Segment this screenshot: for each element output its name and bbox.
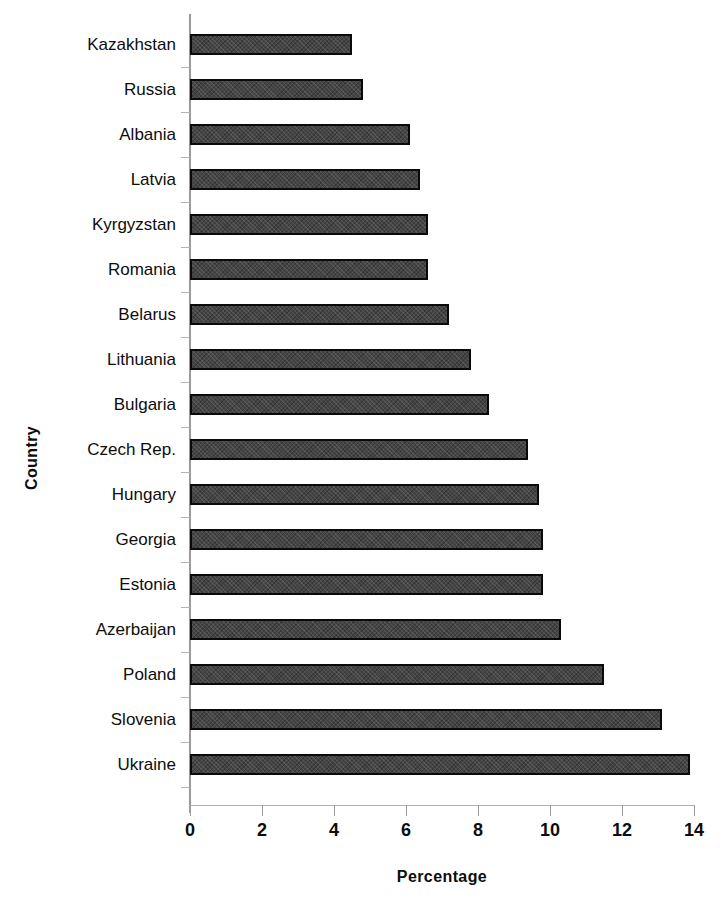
category-label: Poland: [0, 652, 176, 697]
x-axis-tick-label: 10: [540, 820, 560, 841]
category-label: Czech Rep.: [0, 427, 176, 472]
bar[interactable]: [190, 304, 449, 325]
category-axis-tick: [181, 202, 190, 203]
category-axis-tick: [181, 157, 190, 158]
x-axis-tick: [550, 805, 551, 816]
category-label-text: Georgia: [116, 530, 176, 550]
bar[interactable]: [190, 214, 428, 235]
category-label: Kyrgyzstan: [0, 202, 176, 247]
bar[interactable]: [190, 709, 662, 730]
category-label: Latvia: [0, 157, 176, 202]
bar[interactable]: [190, 259, 428, 280]
x-axis-tick-label: 14: [684, 820, 704, 841]
category-label-text: Azerbaijan: [96, 620, 176, 640]
category-label: Estonia: [0, 562, 176, 607]
category-axis-tick: [181, 67, 190, 68]
category-axis-tick: [181, 607, 190, 608]
category-label-text: Belarus: [118, 305, 176, 325]
category-axis-tick: [181, 247, 190, 248]
x-axis-tick-label: 8: [473, 820, 483, 841]
x-axis-tick: [406, 805, 407, 816]
x-axis-tick-label: 6: [401, 820, 411, 841]
plot-area: 02468101214: [190, 22, 694, 805]
category-label: Russia: [0, 67, 176, 112]
bar[interactable]: [190, 349, 471, 370]
category-axis-tick: [181, 112, 190, 113]
bar[interactable]: [190, 529, 543, 550]
x-axis-tick-label: 4: [329, 820, 339, 841]
x-axis-tick-label: 12: [612, 820, 632, 841]
category-label: Albania: [0, 112, 176, 157]
category-axis-tick: [181, 652, 190, 653]
category-label-text: Kazakhstan: [87, 35, 176, 55]
category-label-text: Latvia: [131, 170, 176, 190]
category-label: Lithuania: [0, 337, 176, 382]
category-label-text: Poland: [123, 665, 176, 685]
category-label: Belarus: [0, 292, 176, 337]
category-label-text: Slovenia: [111, 710, 176, 730]
category-axis-tick: [181, 472, 190, 473]
category-axis-tick: [181, 787, 190, 788]
category-axis-tick: [181, 337, 190, 338]
x-axis-title: Percentage: [190, 868, 694, 886]
x-axis-tick-label: 2: [257, 820, 267, 841]
category-axis-tick: [181, 697, 190, 698]
x-axis-tick: [262, 805, 263, 816]
bar[interactable]: [190, 439, 528, 460]
category-label: Kazakhstan: [0, 22, 176, 67]
x-axis-tick-label: 0: [185, 820, 195, 841]
category-label-text: Russia: [124, 80, 176, 100]
category-label: Georgia: [0, 517, 176, 562]
category-label-text: Bulgaria: [114, 395, 176, 415]
bar[interactable]: [190, 754, 690, 775]
category-axis-tick: [181, 517, 190, 518]
category-label: Ukraine: [0, 742, 176, 787]
category-axis-tick: [181, 382, 190, 383]
category-label-text: Estonia: [119, 575, 176, 595]
x-axis-line: [189, 805, 695, 806]
bar[interactable]: [190, 484, 539, 505]
bar[interactable]: [190, 34, 352, 55]
category-axis-tick: [181, 742, 190, 743]
category-label: Romania: [0, 247, 176, 292]
category-label: Bulgaria: [0, 382, 176, 427]
x-axis-tick: [334, 805, 335, 816]
category-label-text: Kyrgyzstan: [92, 215, 176, 235]
category-label-text: Hungary: [112, 485, 176, 505]
bar[interactable]: [190, 79, 363, 100]
category-label-text: Czech Rep.: [87, 440, 176, 460]
x-axis-tick: [622, 805, 623, 816]
category-label: Azerbaijan: [0, 607, 176, 652]
bar[interactable]: [190, 664, 604, 685]
bar[interactable]: [190, 574, 543, 595]
x-axis-tick: [190, 805, 191, 816]
category-axis-tick: [181, 427, 190, 428]
x-axis-tick: [478, 805, 479, 816]
category-label-text: Romania: [108, 260, 176, 280]
bar[interactable]: [190, 619, 561, 640]
bar[interactable]: [190, 169, 420, 190]
category-label-text: Albania: [119, 125, 176, 145]
x-axis-tick: [694, 805, 695, 816]
category-axis-tick: [181, 562, 190, 563]
category-label-text: Lithuania: [107, 350, 176, 370]
category-label: Slovenia: [0, 697, 176, 742]
category-axis-tick: [181, 292, 190, 293]
category-label-text: Ukraine: [117, 755, 176, 775]
bar[interactable]: [190, 124, 410, 145]
bar[interactable]: [190, 394, 489, 415]
category-label: Hungary: [0, 472, 176, 517]
bar-chart: Country 02468101214 Percentage Kazakhsta…: [0, 0, 726, 915]
